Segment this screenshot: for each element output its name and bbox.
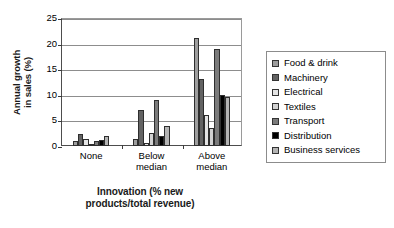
legend-item[interactable]: Machinery — [272, 71, 382, 86]
bar-groups — [61, 18, 242, 146]
legend-swatch-icon — [272, 118, 279, 125]
x-axis-title-line1: Innovation (% new — [20, 186, 260, 198]
x-axis-title-line2: products/total revenue) — [20, 198, 260, 210]
y-axis-title: Annual growth in sales (%) — [12, 28, 33, 138]
legend-item-label: Business services — [284, 145, 360, 155]
legend-item[interactable]: Food & drink — [272, 56, 382, 71]
y-axis-tick-label: 15 — [37, 64, 57, 74]
y-axis-tick-label: 5 — [37, 115, 57, 125]
plot-area — [61, 18, 242, 146]
legend-item-label: Transport — [284, 116, 324, 126]
legend-item[interactable]: Transport — [272, 114, 382, 129]
legend-item-label: Machinery — [284, 73, 328, 83]
bar — [225, 97, 230, 146]
bar-group — [61, 18, 121, 146]
legend-swatch-icon — [272, 147, 279, 154]
bar — [104, 136, 109, 146]
legend-item[interactable]: Textiles — [272, 100, 382, 115]
legend-swatch-icon — [272, 103, 279, 110]
x-axis-tick-label: None — [61, 151, 121, 162]
legend-item[interactable]: Electrical — [272, 85, 382, 100]
y-axis-title-line1: Annual growth — [12, 28, 23, 138]
legend-item-label: Food & drink — [284, 58, 338, 68]
legend-item[interactable]: Business services — [272, 143, 382, 158]
legend-item[interactable]: Distribution — [272, 129, 382, 144]
legend-swatch-icon — [272, 132, 279, 139]
bar-group — [121, 18, 181, 146]
legend-swatch-icon — [272, 89, 279, 96]
x-axis-tick-label: Below median — [121, 151, 181, 172]
bar — [138, 110, 143, 146]
bar-group — [182, 18, 242, 146]
x-axis-tick-label: Above median — [182, 151, 242, 172]
legend-swatch-icon — [272, 74, 279, 81]
y-axis-tick-label: 10 — [37, 90, 57, 100]
legend-item-label: Electrical — [284, 87, 323, 97]
x-axis-title: Innovation (% new products/total revenue… — [20, 186, 260, 209]
y-axis-tick-label: 20 — [37, 39, 57, 49]
chart-figure: Annual growth in sales (%) 2520151050 No… — [0, 0, 394, 228]
legend-item-label: Distribution — [284, 131, 332, 141]
bar — [164, 126, 169, 146]
y-axis-tick-mark — [58, 147, 62, 148]
y-axis-title-line2: in sales (%) — [22, 28, 33, 138]
y-axis-tick-label: 25 — [37, 13, 57, 23]
y-axis-tick-label: 0 — [37, 141, 57, 151]
chart-legend: Food & drinkMachineryElectricalTextilesT… — [266, 51, 386, 163]
legend-swatch-icon — [272, 60, 279, 67]
legend-item-label: Textiles — [284, 102, 316, 112]
